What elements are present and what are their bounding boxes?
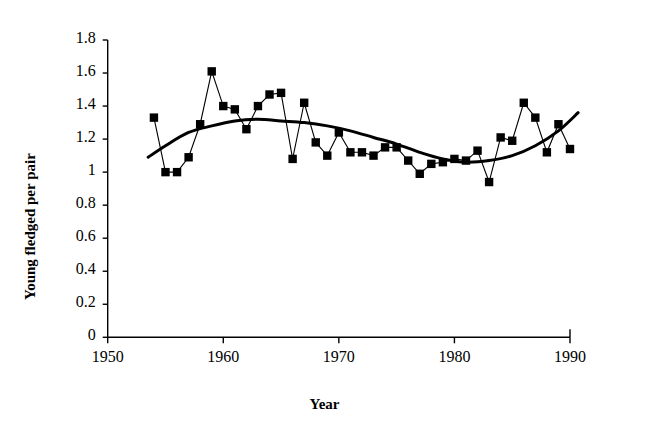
data-point-marker [335,128,343,136]
y-axis-tick-label: 0 [36,326,96,344]
data-point-marker [439,158,447,166]
y-axis-tick-label: 0.8 [36,194,96,212]
data-point-marker [462,156,470,164]
data-point-marker [531,113,539,121]
data-point-marker [369,151,377,159]
chart-figure: Young fledged per pair Year 00.20.40.60.… [0,0,649,432]
data-point-marker [254,102,262,110]
y-axis-tick-label: 1 [36,161,96,179]
x-axis-title: Year [0,396,649,413]
x-axis-tick-label: 1980 [419,348,489,366]
data-point-marker [392,143,400,151]
data-point-marker [312,138,320,146]
data-point-marker [473,146,481,154]
data-point-marker [150,113,158,121]
data-point-marker [416,170,424,178]
data-point-marker [219,102,227,110]
data-point-marker [277,89,285,97]
data-point-marker [323,151,331,159]
data-point-marker [231,105,239,113]
data-point-marker [450,155,458,163]
data-point-marker [196,120,204,128]
data-point-marker [288,155,296,163]
x-axis-tick-label: 1990 [535,348,605,366]
data-point-marker [520,99,528,107]
data-point-marker [508,137,516,145]
data-series-line [154,71,570,182]
x-axis-tick-label: 1970 [304,348,374,366]
data-point-marker [358,148,366,156]
data-point-marker [554,120,562,128]
data-point-marker [485,178,493,186]
chart-plot-area [0,0,649,432]
data-point-marker [242,125,250,133]
series-polyline [154,71,570,182]
data-point-marker [543,148,551,156]
data-point-marker [346,148,354,156]
data-point-marker [161,168,169,176]
data-point-marker [381,143,389,151]
data-point-marker [427,160,435,168]
y-axis-tick-label: 1.4 [36,95,96,113]
y-axis-tick-label: 0.4 [36,260,96,278]
data-point-marker [265,90,273,98]
axes [103,40,570,343]
y-axis-tick-label: 0.2 [36,293,96,311]
data-point-marker [208,67,216,75]
x-axis-tick-label: 1960 [188,348,258,366]
y-axis-tick-label: 1.8 [36,29,96,47]
data-point-marker [404,156,412,164]
data-point-marker [184,153,192,161]
data-point-marker [496,133,504,141]
data-point-marker [173,168,181,176]
y-axis-tick-label: 1.2 [36,128,96,146]
x-axis-tick-label: 1950 [73,348,143,366]
data-point-marker [300,99,308,107]
data-point-marker [566,145,574,153]
y-axis-tick-label: 1.6 [36,62,96,80]
y-axis-tick-label: 0.6 [36,227,96,245]
